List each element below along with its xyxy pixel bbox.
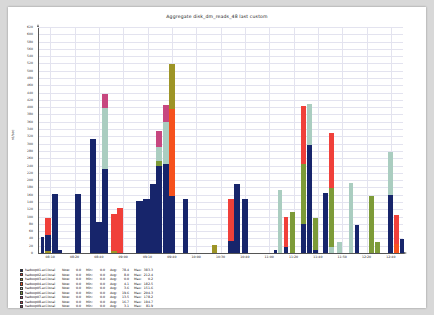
bar <box>242 199 248 254</box>
legend-color-swatch <box>20 273 23 276</box>
bar <box>369 196 374 254</box>
y-tick-label: 320 <box>27 136 33 139</box>
bar-segment <box>117 208 123 254</box>
bar <box>278 190 282 254</box>
bar-segment <box>284 217 288 248</box>
bar <box>394 215 399 254</box>
y-tick-label: 520 <box>27 63 33 66</box>
x-tick-label: 11:50 <box>338 256 347 259</box>
bar <box>313 218 318 254</box>
x-tick-label: 09:00 <box>119 256 128 259</box>
bar <box>45 218 51 254</box>
y-tick-label: 540 <box>27 56 33 59</box>
gridline-vertical <box>318 28 319 254</box>
x-tick-label: 08:40 <box>94 256 103 259</box>
y-axis-arrow-icon <box>37 24 39 27</box>
bar-segment <box>45 235 51 251</box>
x-axis-arrow-icon <box>404 252 407 254</box>
x-tick-label: 11:40 <box>313 256 322 259</box>
gridline-vertical <box>123 28 124 254</box>
bar-segment <box>329 133 334 188</box>
x-tick-label: 09:40 <box>167 256 176 259</box>
x-tick-label: 09:10 <box>143 256 152 259</box>
bar <box>102 94 108 254</box>
bar <box>90 139 96 254</box>
legend-series-name: hadoop09.eci.local <box>25 304 62 309</box>
bar <box>349 183 353 254</box>
bar <box>307 104 312 254</box>
bar <box>75 194 81 255</box>
bar-segment <box>111 214 117 251</box>
y-tick-label: 340 <box>27 129 33 132</box>
x-tick-label: 11:00 <box>265 256 274 259</box>
bar-segment <box>301 224 306 254</box>
gridline-vertical <box>221 28 222 254</box>
bar-segment <box>388 195 393 254</box>
y-tick-label: 400 <box>27 107 33 110</box>
bar-segment <box>75 194 81 255</box>
y-tick-label: 220 <box>27 172 33 175</box>
y-tick-label: 300 <box>27 143 33 146</box>
bar <box>136 201 143 254</box>
y-tick-label: 280 <box>27 150 33 153</box>
bar-segment <box>307 145 312 254</box>
bar-segment <box>290 212 295 254</box>
bar <box>284 217 288 254</box>
gridline-vertical <box>342 28 343 254</box>
bar <box>388 152 393 254</box>
y-tick-label: 20 <box>29 245 33 248</box>
y-tick-label: 200 <box>27 180 33 183</box>
legend-color-swatch <box>20 278 23 281</box>
y-tick-label: 620 <box>27 26 33 29</box>
gridline-vertical <box>367 28 368 254</box>
bar <box>41 237 44 254</box>
bar-segment <box>136 201 143 254</box>
bar <box>329 133 334 254</box>
y-tick-label: 420 <box>27 99 33 102</box>
bar <box>52 194 58 255</box>
bar-segment <box>278 190 282 254</box>
bar-segment <box>143 199 150 254</box>
x-tick-label: 10:00 <box>192 256 201 259</box>
legend-color-swatch <box>20 291 23 294</box>
y-tick-label: 80 <box>29 223 33 226</box>
bar <box>290 212 295 254</box>
bar <box>156 131 162 254</box>
x-tick-label: 12:40 <box>386 256 395 259</box>
y-tick-label: 160 <box>27 194 33 197</box>
bar-segment <box>301 106 306 164</box>
bar <box>183 199 188 254</box>
bar-segment <box>156 147 162 161</box>
bar-segment <box>183 199 188 254</box>
bar-segment <box>301 164 306 224</box>
legend-color-swatch <box>20 301 23 304</box>
bar-segment <box>349 183 353 254</box>
bar <box>143 199 150 254</box>
bar-segment <box>169 196 175 254</box>
y-tick-label: 140 <box>27 201 33 204</box>
y-tick-label: 260 <box>27 158 33 161</box>
bar-segment <box>169 109 175 196</box>
x-tick-label: 08:20 <box>70 256 79 259</box>
y-tick-label: 360 <box>27 121 33 124</box>
x-tick-label: 11:20 <box>289 256 298 259</box>
legend-row[interactable]: hadoop09.eci.localNow:0.0Min:0.0Avg:3.1M… <box>20 304 250 309</box>
y-tick-label: 560 <box>27 48 33 51</box>
bar-segment <box>52 194 58 255</box>
bar-segment <box>234 184 240 254</box>
bar-segment <box>102 169 108 254</box>
bar-segment <box>323 193 328 254</box>
x-tick-label: 12:20 <box>362 256 371 259</box>
graph-panel: Aggregate disk_dm_reads_48 last custom r… <box>8 7 426 308</box>
bar-segment <box>228 199 234 241</box>
bar-segment <box>388 152 393 195</box>
bar-segment <box>169 64 175 109</box>
bar-segment <box>329 188 334 247</box>
y-axis-tick-labels: 0204060801001201401601802002202402602803… <box>8 28 36 254</box>
bar-segment <box>90 139 96 254</box>
bar <box>111 214 117 254</box>
bar-segment <box>102 94 108 109</box>
legend-color-swatch <box>20 305 23 308</box>
plot-area <box>38 28 403 254</box>
y-tick-label: 40 <box>29 238 33 241</box>
